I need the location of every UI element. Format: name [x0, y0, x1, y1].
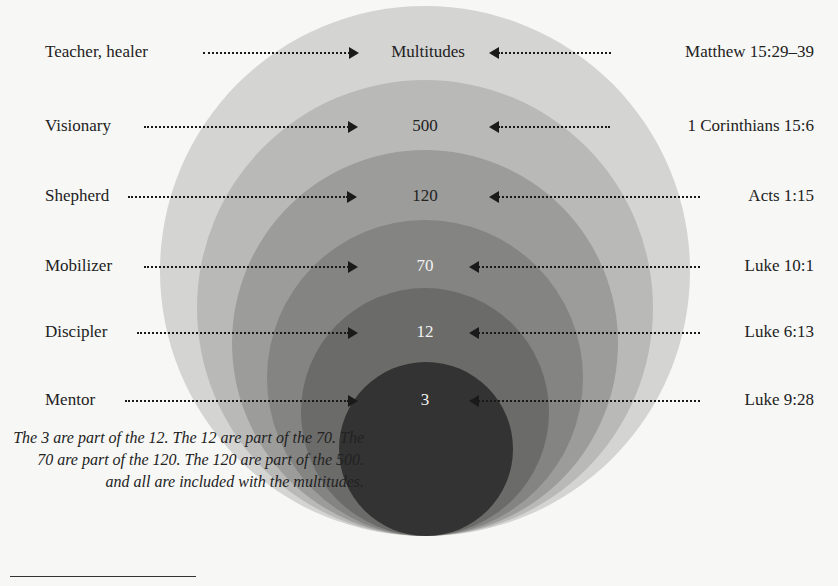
reference-1-corinthians: 1 Corinthians 15:6 — [687, 116, 814, 136]
arrow-right-icon — [128, 196, 348, 198]
arrow-left-icon — [478, 332, 700, 334]
group-label-120: 120 — [355, 186, 495, 206]
arrow-right-icon — [144, 126, 349, 128]
arrow-right-icon — [125, 400, 349, 402]
arrow-left-icon — [498, 126, 610, 128]
reference-matthew: Matthew 15:29–39 — [685, 42, 814, 62]
circle-3 — [339, 362, 513, 536]
arrow-left-icon — [498, 52, 611, 54]
arrow-left-icon — [478, 266, 700, 268]
reference-luke-6: Luke 6:13 — [745, 322, 814, 342]
group-label-multitudes: Multitudes — [358, 42, 498, 62]
reference-acts: Acts 1:15 — [748, 186, 814, 206]
arrow-right-icon — [144, 266, 349, 268]
role-label-shepherd: Shepherd — [45, 186, 109, 206]
explanatory-note: The 3 are part of the 12. The 12 are par… — [10, 427, 364, 493]
reference-luke-10: Luke 10:1 — [745, 256, 814, 276]
arrow-left-icon — [478, 400, 700, 402]
group-label-500: 500 — [355, 116, 495, 136]
role-label-mobilizer: Mobilizer — [45, 256, 112, 276]
reference-luke-9: Luke 9:28 — [745, 390, 814, 410]
footnote-rule — [10, 576, 196, 577]
arrow-right-icon — [203, 52, 350, 54]
role-label-mentor: Mentor — [45, 390, 95, 410]
role-label-discipler: Discipler — [45, 322, 107, 342]
arrow-left-icon — [498, 196, 700, 198]
role-label-visionary: Visionary — [45, 116, 111, 136]
role-label-teacher-healer: Teacher, healer — [45, 42, 148, 62]
arrow-right-icon — [137, 332, 349, 334]
